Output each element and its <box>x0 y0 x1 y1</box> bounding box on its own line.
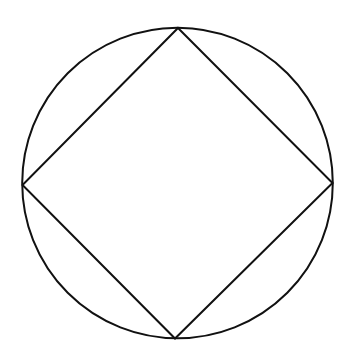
inscribed-square <box>23 28 333 339</box>
diagram-canvas <box>0 0 357 356</box>
circumscribed-circle <box>22 28 333 339</box>
